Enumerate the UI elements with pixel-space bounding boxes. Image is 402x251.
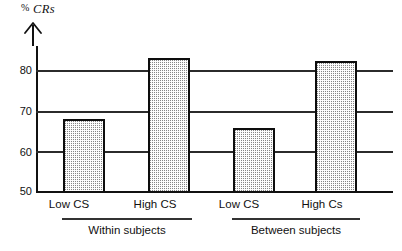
group-label-between: Between subjects <box>232 224 360 236</box>
plot-area <box>36 46 393 193</box>
y-axis-title: % CRs <box>21 2 55 17</box>
bar-between-low-cs <box>233 128 275 193</box>
group-rule-within <box>62 218 192 220</box>
bar-within-high-cs <box>148 58 190 193</box>
y-axis-ticks: 80 70 60 50 <box>0 46 32 193</box>
category-label-within-low-cs: Low CS <box>41 198 97 210</box>
percent-symbol: % <box>21 2 30 13</box>
category-label-between-low-cs: Low CS <box>211 198 267 210</box>
group-rule-between <box>232 218 360 220</box>
bar-within-low-cs <box>63 119 105 193</box>
y-tick-80: 80 <box>20 65 32 76</box>
y-tick-60: 60 <box>20 147 32 158</box>
up-arrow-icon <box>21 20 45 46</box>
bar-between-high-cs <box>315 61 357 193</box>
category-label-within-high-cs: High CS <box>126 198 184 210</box>
category-label-between-high-cs: High Cs <box>293 198 351 210</box>
x-axis-line <box>36 191 393 193</box>
group-label-within: Within subjects <box>62 224 192 236</box>
y-axis-title-text: CRs <box>33 2 55 16</box>
y-axis-line <box>36 46 38 193</box>
bar-chart: % CRs 80 70 60 50 Low CS High CS Low CS … <box>0 0 402 251</box>
y-tick-50: 50 <box>20 186 32 197</box>
y-tick-70: 70 <box>20 106 32 117</box>
